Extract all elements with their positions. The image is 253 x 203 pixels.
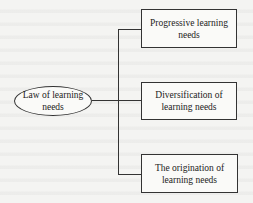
child-node-origination: The origination of learning needs bbox=[141, 154, 238, 193]
child-node-label: Progressive learning needs bbox=[148, 17, 230, 41]
root-node: Law of learning needs bbox=[14, 86, 92, 116]
branch-connector-3 bbox=[118, 174, 142, 175]
child-node-label: The origination of learning needs bbox=[148, 162, 231, 186]
branch-connector-1 bbox=[118, 29, 142, 30]
child-node-progressive: Progressive learning needs bbox=[141, 9, 237, 48]
branch-connector-2 bbox=[118, 100, 142, 101]
trunk-line bbox=[118, 29, 119, 175]
child-node-diversification: Diversification of learning needs bbox=[141, 82, 237, 120]
child-node-label: Diversification of learning needs bbox=[148, 89, 230, 113]
root-connector bbox=[92, 100, 119, 101]
root-node-label: Law of learning needs bbox=[21, 89, 85, 113]
